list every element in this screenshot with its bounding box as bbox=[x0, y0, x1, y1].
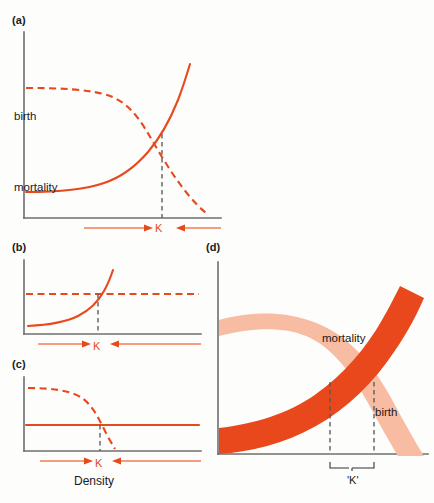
panel-b-mortality-curve bbox=[28, 270, 113, 326]
panel-b-k-label: K bbox=[93, 340, 100, 352]
panel-c-label: (c) bbox=[12, 358, 26, 370]
panel-c-arrow-left bbox=[112, 458, 201, 465]
panel-a-mortality-label: mortality bbox=[14, 181, 57, 193]
panel-d-k-bracket bbox=[330, 462, 374, 471]
panel-d-mortality-label: mortality bbox=[322, 332, 365, 344]
panel-d-label: (d) bbox=[206, 241, 220, 253]
panel-d-birth-label: birth bbox=[375, 406, 397, 418]
panel-b-label: (b) bbox=[12, 241, 26, 253]
panel-b-chart bbox=[18, 258, 203, 346]
panel-a-arrow-left bbox=[176, 225, 221, 232]
panel-a-birth-label: birth bbox=[14, 110, 36, 122]
figure-density-dependence: (a) birth mortality K (b) bbox=[0, 0, 434, 503]
panel-a-label: (a) bbox=[12, 14, 26, 26]
panel-c-birth-curve bbox=[28, 388, 115, 449]
panel-b-arrow-left bbox=[110, 341, 201, 348]
panel-c-k-label: K bbox=[95, 457, 102, 469]
panel-a-mortality-curve bbox=[26, 64, 190, 192]
panel-a-chart bbox=[18, 30, 223, 230]
panel-c-arrow-right bbox=[40, 458, 93, 465]
panel-b-arrow-right bbox=[38, 341, 91, 348]
panel-c-chart bbox=[18, 375, 203, 463]
panel-a-birth-curve bbox=[26, 88, 206, 213]
panel-a-k-label: K bbox=[155, 222, 162, 234]
panel-d-k-range-label: 'K' bbox=[347, 474, 359, 486]
panel-a-arrow-right bbox=[84, 225, 153, 232]
x-axis-title: Density bbox=[74, 474, 114, 488]
panel-d-chart bbox=[210, 258, 432, 488]
